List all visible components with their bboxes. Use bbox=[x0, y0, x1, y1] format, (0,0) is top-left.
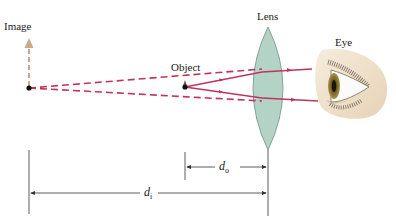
eye-illustration bbox=[315, 49, 387, 119]
converging-lens bbox=[253, 27, 283, 150]
lens-label: Lens bbox=[257, 11, 278, 22]
image-point bbox=[26, 85, 31, 90]
object-arrow bbox=[182, 80, 187, 90]
image-label: Image bbox=[4, 21, 31, 32]
object-label: Object bbox=[171, 62, 200, 73]
image-distance-label: di bbox=[141, 186, 155, 201]
object-distance-label: do bbox=[216, 160, 232, 175]
virtual-rays bbox=[29, 69, 262, 101]
magnifier-diagram: Image Object Lens Eye do di bbox=[0, 0, 396, 224]
virtual-image-arrow bbox=[25, 38, 34, 86]
eye-label: Eye bbox=[335, 37, 352, 48]
dimension-lines bbox=[29, 150, 268, 216]
